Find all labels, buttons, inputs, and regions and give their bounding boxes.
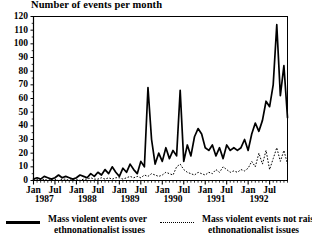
legend-label-line2: ethnonationalist issues [48, 225, 147, 236]
y-tick-label: 80 [2, 66, 28, 76]
x-year-label: 1989 [113, 194, 147, 204]
y-tick-label: 50 [2, 107, 28, 117]
y-tick-label: 100 [2, 38, 28, 48]
x-year-label: 1992 [242, 194, 276, 204]
y-tick-label: 30 [2, 134, 28, 144]
y-tick-label: 10 [2, 161, 28, 171]
y-tick-label: 40 [2, 120, 28, 130]
legend-dotted-line-icon [160, 222, 194, 223]
x-year-label: 1988 [70, 194, 104, 204]
legend-label-line1: Mass violent events over [48, 214, 147, 224]
x-year-label: 1991 [199, 194, 233, 204]
series-line-ethnonationalist [34, 25, 288, 179]
y-tick-label: 90 [2, 52, 28, 62]
plot-svg [0, 0, 312, 200]
series-line-non-ethnonationalist [34, 148, 288, 181]
y-tick-label: 60 [2, 93, 28, 103]
y-tick-label: 20 [2, 148, 28, 158]
y-tick-label: 70 [2, 79, 28, 89]
y-tick-label: 0 [2, 175, 28, 185]
chart-legend: Mass violent events over ethnonationalis… [0, 214, 312, 246]
x-year-label: 1990 [156, 194, 190, 204]
legend-label-line1: Mass violent events not raising [202, 214, 312, 224]
legend-label-non-ethnonationalist: Mass violent events not raising ethnonat… [202, 214, 312, 236]
plot-area: 1201101009080706050403020100 JanJulJanJu… [0, 0, 312, 200]
y-tick-label: 110 [2, 25, 28, 35]
x-axis-ticks [34, 181, 288, 185]
y-tick-label: 120 [2, 11, 28, 21]
legend-label-line2: ethnonationalist issues [202, 225, 312, 236]
legend-label-ethnonationalist: Mass violent events over ethnonationalis… [48, 214, 147, 236]
chart-figure: Number of events per month 1201101009080… [0, 0, 312, 246]
legend-solid-line-icon [6, 221, 40, 224]
x-year-label: 1987 [27, 194, 61, 204]
